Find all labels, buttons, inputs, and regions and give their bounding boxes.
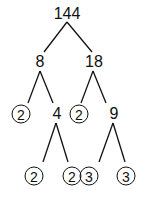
edge-18-2	[81, 71, 93, 103]
edge-9-3a	[99, 123, 113, 162]
node-prime-2: 2	[25, 167, 44, 186]
node-prime-3: 3	[80, 167, 99, 186]
node-prime-3: 3	[117, 167, 136, 186]
edge-18-9	[93, 71, 106, 103]
node-9: 9	[110, 106, 119, 122]
node-144: 144	[54, 6, 81, 22]
node-4: 4	[53, 106, 62, 122]
edge-8-2	[28, 71, 40, 103]
edge-144-8	[44, 22, 67, 52]
node-prime-2: 2	[70, 105, 89, 124]
edge-9-3b	[113, 123, 125, 162]
node-prime-2: 2	[12, 105, 31, 124]
node-8: 8	[36, 54, 45, 70]
edge-4-2a	[43, 123, 56, 162]
edge-144-18	[67, 22, 92, 52]
node-18: 18	[85, 54, 103, 70]
edge-4-2b	[56, 123, 68, 162]
edge-8-4	[40, 71, 53, 103]
